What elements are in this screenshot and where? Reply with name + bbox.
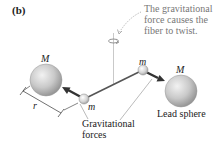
large-mass-left-label: M	[41, 54, 49, 64]
large-mass-right-label: M	[176, 65, 184, 75]
annotation-line-2: force causes the	[144, 14, 213, 25]
annotation-line-1: The gravitational	[144, 3, 213, 14]
annotation-line-3: fiber to twist.	[144, 25, 213, 36]
gravitational-force-arrow-right	[147, 73, 165, 82]
panel-label: (b)	[12, 5, 25, 16]
lead-sphere-label: Lead sphere	[157, 108, 206, 119]
leader-line-right	[120, 79, 152, 120]
distance-label: r	[33, 101, 37, 111]
twist-annotation: The gravitational force causes the fiber…	[144, 3, 213, 36]
cavendish-diagram: (b) The gravitational force causes the f…	[0, 0, 223, 149]
gravitational-force-arrow-left	[62, 87, 80, 97]
annotation-pointer	[119, 12, 141, 33]
small-mass-left-label: m	[88, 102, 95, 112]
large-mass-left	[30, 64, 62, 96]
forces-label-line-2: forces	[82, 129, 135, 140]
small-mass-right-label: m	[139, 57, 146, 67]
leader-line-left	[80, 104, 88, 119]
forces-label-line-1: Gravitational	[82, 118, 135, 129]
gravitational-forces-label: Gravitational forces	[82, 118, 135, 140]
large-mass-right	[165, 75, 197, 107]
